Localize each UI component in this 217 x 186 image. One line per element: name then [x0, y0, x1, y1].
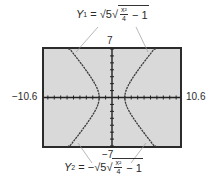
y1-symbol: Y — [76, 8, 83, 20]
minus-one: − 1 — [123, 162, 142, 174]
radical: √ x²4 − 1 — [112, 5, 149, 23]
ymin-label: −7 — [102, 149, 113, 160]
ymax-label: 7 — [107, 35, 113, 46]
xmax-label: 10.6 — [186, 91, 205, 102]
numerator: x² — [114, 159, 122, 168]
equals-sign: = — [87, 8, 100, 20]
numerator: x² — [120, 6, 128, 15]
denominator: 4 — [116, 168, 120, 176]
minus-one: − 1 — [129, 9, 148, 21]
y2-symbol: Y — [64, 161, 71, 173]
equation-y2: Y2 = − √5 √ x²4 − 1 — [64, 158, 143, 176]
denominator: 4 — [122, 15, 126, 23]
equation-y1: Y1 = √5 √ x²4 − 1 — [76, 5, 149, 23]
radical: √ x²4 − 1 — [106, 158, 143, 176]
fraction: x²4 — [114, 159, 122, 176]
fraction: x²4 — [120, 6, 128, 23]
xmin-label: −10.6 — [12, 91, 37, 102]
equals-sign: = — [75, 161, 88, 173]
sqrt5: √5 — [94, 161, 106, 173]
sqrt5: √5 — [100, 8, 112, 20]
